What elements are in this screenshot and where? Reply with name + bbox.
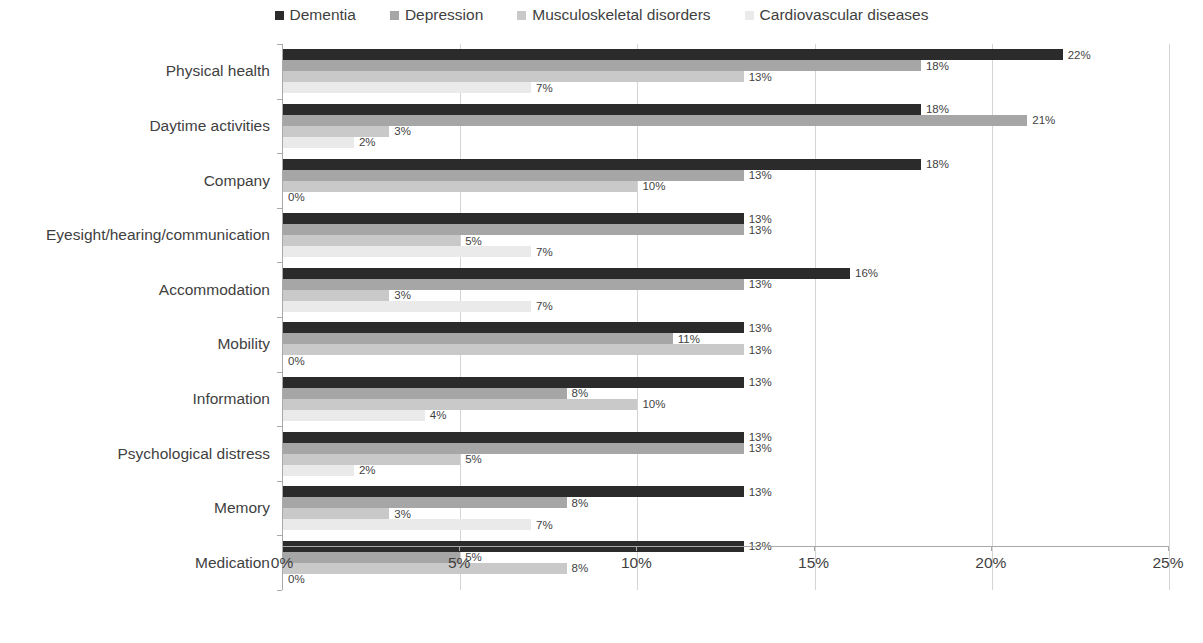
bar-musculoskeletal-disorders[interactable] [283, 235, 460, 246]
x-axis-tick-label: 5% [448, 554, 470, 572]
bar-value-label: 0% [288, 192, 305, 203]
category-axis-tick [277, 317, 282, 318]
x-axis-tick [459, 546, 460, 551]
legend-item-musculoskeletal-disorders[interactable]: Musculoskeletal disorders [517, 6, 710, 24]
bar-value-label: 5% [465, 235, 482, 246]
category-label: Information [192, 390, 270, 408]
bar-depression[interactable] [283, 170, 744, 181]
chart-legend: DementiaDepressionMusculoskeletal disord… [0, 6, 1203, 24]
bar-depression[interactable] [283, 552, 460, 563]
bar-value-label: 21% [1032, 115, 1055, 126]
category-label: Company [204, 172, 270, 190]
bar-value-label: 2% [359, 137, 376, 148]
bar-value-label: 18% [926, 104, 949, 115]
category-axis-tick [277, 99, 282, 100]
bar-dementia[interactable] [283, 322, 744, 333]
gridline [637, 44, 638, 590]
bar-musculoskeletal-disorders[interactable] [283, 71, 744, 82]
bar-value-label: 8% [572, 563, 589, 574]
bar-dementia[interactable] [283, 377, 744, 388]
gridline [1169, 44, 1170, 590]
legend-swatch-icon [390, 11, 399, 20]
bar-depression[interactable] [283, 497, 567, 508]
x-axis-tick-label: 10% [621, 554, 652, 572]
bar-dementia[interactable] [283, 486, 744, 497]
bar-musculoskeletal-disorders[interactable] [283, 290, 389, 301]
bar-value-label: 18% [926, 60, 949, 71]
category-axis-tick [277, 426, 282, 427]
category-label: Accommodation [159, 281, 270, 299]
x-axis-tick [282, 546, 283, 551]
bar-depression[interactable] [283, 224, 744, 235]
bar-dementia[interactable] [283, 213, 744, 224]
category-axis-tick [277, 262, 282, 263]
bar-value-label: 7% [536, 301, 553, 312]
bar-value-label: 13% [749, 486, 772, 497]
legend-item-dementia[interactable]: Dementia [275, 6, 356, 24]
bar-value-label: 13% [749, 71, 772, 82]
bar-value-label: 13% [749, 322, 772, 333]
bar-cardiovascular-diseases[interactable] [283, 519, 531, 530]
x-axis-tick-label: 15% [798, 554, 829, 572]
bar-value-label: 7% [536, 519, 553, 530]
bar-value-label: 13% [749, 224, 772, 235]
bar-depression[interactable] [283, 60, 921, 71]
bar-cardiovascular-diseases[interactable] [283, 410, 425, 421]
gridline [992, 44, 993, 590]
bar-value-label: 13% [749, 344, 772, 355]
gridline [815, 44, 816, 590]
bar-musculoskeletal-disorders[interactable] [283, 563, 567, 574]
legend-item-cardiovascular-diseases[interactable]: Cardiovascular diseases [745, 6, 929, 24]
bar-dementia[interactable] [283, 104, 921, 115]
bar-value-label: 3% [394, 290, 411, 301]
bar-depression[interactable] [283, 279, 744, 290]
category-label: Medication [195, 554, 270, 572]
bar-dementia[interactable] [283, 159, 921, 170]
bar-musculoskeletal-disorders[interactable] [283, 181, 637, 192]
legend-item-label: Cardiovascular diseases [760, 6, 929, 24]
category-label: Memory [214, 499, 270, 517]
bar-depression[interactable] [283, 333, 673, 344]
category-axis-tick [277, 372, 282, 373]
plot-area: 22%18%13%7%18%21%3%2%18%13%10%0%13%13%5%… [282, 44, 1169, 590]
bar-value-label: 3% [394, 126, 411, 137]
bar-value-label: 8% [572, 497, 589, 508]
bar-value-label: 3% [394, 508, 411, 519]
legend-item-label: Depression [405, 6, 483, 24]
bar-cardiovascular-diseases[interactable] [283, 301, 531, 312]
bar-musculoskeletal-disorders[interactable] [283, 344, 744, 355]
legend-item-depression[interactable]: Depression [390, 6, 483, 24]
bar-musculoskeletal-disorders[interactable] [283, 508, 389, 519]
bar-cardiovascular-diseases[interactable] [283, 465, 354, 476]
bar-value-label: 5% [465, 454, 482, 465]
bar-value-label: 7% [536, 82, 553, 93]
bar-depression[interactable] [283, 388, 567, 399]
bar-value-label: 13% [749, 170, 772, 181]
category-label: Mobility [217, 335, 270, 353]
x-axis-tick-label: 20% [975, 554, 1006, 572]
bar-value-label: 4% [430, 410, 447, 421]
legend-swatch-icon [745, 11, 754, 20]
bar-cardiovascular-diseases[interactable] [283, 82, 531, 93]
bar-value-label: 13% [749, 377, 772, 388]
legend-item-label: Musculoskeletal disorders [532, 6, 710, 24]
bar-dementia[interactable] [283, 432, 744, 443]
category-axis-tick [277, 590, 282, 591]
bar-chart: Physical healthDaytime activitiesCompany… [0, 44, 1203, 604]
bar-cardiovascular-diseases[interactable] [283, 246, 531, 257]
bar-value-label: 22% [1068, 49, 1091, 60]
bar-value-label: 13% [749, 279, 772, 290]
category-label: Eyesight/hearing/communication [46, 226, 270, 244]
bar-value-label: 10% [642, 399, 665, 410]
category-label: Daytime activities [149, 117, 270, 135]
category-axis: Physical healthDaytime activitiesCompany… [0, 44, 282, 590]
bar-value-label: 8% [572, 388, 589, 399]
category-label: Psychological distress [118, 445, 270, 463]
bar-depression[interactable] [283, 443, 744, 454]
bar-musculoskeletal-disorders[interactable] [283, 399, 637, 410]
bar-value-label: 0% [288, 574, 305, 585]
bar-cardiovascular-diseases[interactable] [283, 137, 354, 148]
gridline [460, 44, 461, 590]
x-axis-tick [636, 546, 637, 551]
bar-value-label: 2% [359, 465, 376, 476]
